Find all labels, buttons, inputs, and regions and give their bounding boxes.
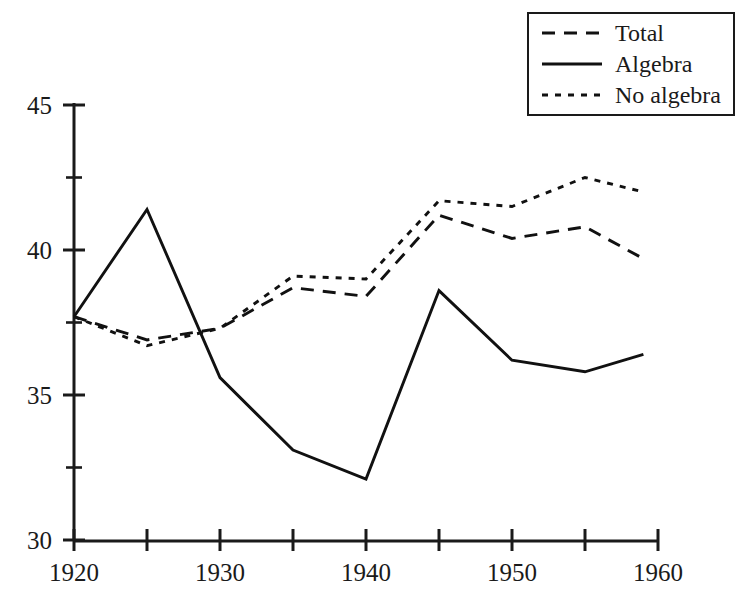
legend-swatch-solid-icon (541, 58, 603, 70)
y-axis-tick-label: 45 (27, 92, 52, 119)
x-axis-tick-label: 1930 (195, 559, 245, 586)
legend-swatch-dashed-icon (541, 27, 603, 39)
legend-label: Total (615, 21, 664, 45)
legend-swatch-dotted-icon (541, 89, 603, 101)
y-axis-tick-labels: 30354045 (27, 92, 52, 554)
legend-item-algebra[interactable]: Algebra (541, 49, 733, 80)
y-axis-tick-label: 35 (27, 382, 52, 409)
y-axis-tick-label: 30 (27, 527, 52, 554)
series-line-algebra (74, 209, 643, 479)
x-axis-tick-label: 1940 (341, 559, 391, 586)
series-line-no-algebra (74, 178, 643, 346)
x-axis-tick-label: 1920 (49, 559, 99, 586)
data-series-group (74, 178, 643, 480)
legend-label: Algebra (615, 52, 692, 76)
x-axis-tick-label: 1950 (487, 559, 537, 586)
legend: TotalAlgebraNo algebra (527, 12, 735, 116)
x-axis-tick-label: 1960 (633, 559, 683, 586)
line-chart: 30354045 19201930194019501960 TotalAlgeb… (0, 0, 751, 616)
x-axis-tick-labels: 19201930194019501960 (49, 559, 683, 586)
y-axis-tick-label: 40 (27, 237, 52, 264)
series-line-total (74, 215, 643, 340)
legend-label: No algebra (615, 83, 721, 107)
legend-item-no-algebra[interactable]: No algebra (541, 79, 733, 110)
legend-item-total[interactable]: Total (541, 18, 733, 49)
